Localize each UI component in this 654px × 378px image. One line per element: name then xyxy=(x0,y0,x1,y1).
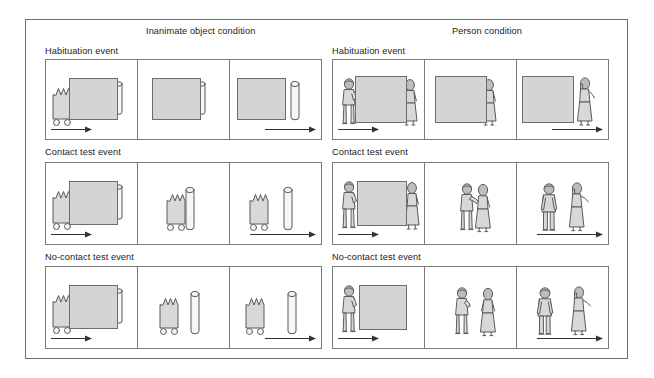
row-label-person-contact-test: Contact test event xyxy=(332,147,408,157)
row-label-inanimate-no-contact-test: No-contact test event xyxy=(45,252,134,262)
occluding-screen xyxy=(69,285,118,329)
cart-object-icon xyxy=(165,191,187,233)
male-figure-icon xyxy=(539,183,561,233)
panel-row-person-no-contact-test xyxy=(332,266,609,349)
cylinder-icon xyxy=(190,291,200,335)
panel-inanimate-no-contact-test-1 xyxy=(46,267,138,348)
cylinder-icon xyxy=(185,187,195,231)
motion-arrow-icon xyxy=(265,335,317,342)
occluding-screen xyxy=(69,78,118,120)
motion-arrow-icon xyxy=(338,335,380,342)
panel-person-contact-test-2 xyxy=(425,163,517,244)
panel-inanimate-contact-test-3 xyxy=(230,163,321,244)
occluding-screen xyxy=(69,181,118,225)
male-figure-icon xyxy=(340,285,360,335)
row-label-inanimate-habituation: Habituation event xyxy=(45,46,118,56)
panel-row-person-contact-test xyxy=(332,162,609,245)
motion-arrow-icon xyxy=(537,335,604,342)
female-figure-icon xyxy=(571,286,593,337)
panel-row-inanimate-no-contact-test xyxy=(45,266,322,349)
occluding-screen xyxy=(435,76,487,123)
row-label-person-habituation: Habituation event xyxy=(332,46,405,56)
panel-person-no-contact-test-2 xyxy=(425,267,517,348)
panel-inanimate-no-contact-test-3 xyxy=(230,267,321,348)
panel-person-habituation-2 xyxy=(425,60,517,139)
occluding-screen xyxy=(357,181,407,226)
cylinder-icon xyxy=(287,291,297,335)
motion-arrow-icon xyxy=(51,335,93,342)
motion-arrow-icon xyxy=(552,126,604,133)
motion-arrow-icon xyxy=(265,126,317,133)
male-figure-icon xyxy=(453,287,473,337)
panel-person-habituation-3 xyxy=(517,60,608,139)
panel-person-habituation-1 xyxy=(333,60,425,139)
panel-inanimate-contact-test-2 xyxy=(138,163,230,244)
cylinder-icon xyxy=(290,81,300,121)
row-label-person-no-contact-test: No-contact test event xyxy=(332,252,421,262)
occluding-screen xyxy=(359,285,407,330)
panel-row-person-habituation xyxy=(332,59,609,140)
motion-arrow-icon xyxy=(338,126,380,133)
cart-object-icon xyxy=(244,295,266,337)
panel-person-contact-test-1 xyxy=(333,163,425,244)
cart-object-icon xyxy=(158,295,180,337)
panel-person-contact-test-3 xyxy=(517,163,608,244)
panel-inanimate-habituation-2 xyxy=(138,60,230,139)
female-figure-icon xyxy=(569,182,591,233)
female-figure-icon xyxy=(405,182,421,230)
motion-arrow-icon xyxy=(338,231,380,238)
experimental-design-figure: Inanimate object condition Person condit… xyxy=(0,0,654,378)
occluding-screen xyxy=(237,78,286,120)
panel-inanimate-contact-test-1 xyxy=(46,163,138,244)
cart-object-icon xyxy=(248,191,270,233)
occluding-screen xyxy=(522,76,574,123)
row-label-inanimate-contact-test: Contact test event xyxy=(45,147,121,157)
cylinder-icon xyxy=(283,187,293,231)
panel-row-inanimate-contact-test xyxy=(45,162,322,245)
panel-inanimate-no-contact-test-2 xyxy=(138,267,230,348)
panel-inanimate-habituation-1 xyxy=(46,60,138,139)
panel-inanimate-habituation-3 xyxy=(230,60,321,139)
female-figure-icon xyxy=(475,184,493,233)
motion-arrow-icon xyxy=(537,231,604,238)
female-figure-icon xyxy=(480,288,498,337)
column-title-person: Person condition xyxy=(452,26,522,36)
motion-arrow-icon xyxy=(51,231,93,238)
panel-person-no-contact-test-1 xyxy=(333,267,425,348)
occluding-screen xyxy=(355,76,407,123)
occluding-screen xyxy=(152,78,201,120)
motion-arrow-icon xyxy=(51,126,93,133)
motion-arrow-icon xyxy=(250,231,317,238)
column-title-inanimate: Inanimate object condition xyxy=(146,26,255,36)
female-figure-icon xyxy=(577,77,597,127)
panel-row-inanimate-habituation xyxy=(45,59,322,140)
male-figure-icon xyxy=(535,287,557,337)
panel-person-no-contact-test-3 xyxy=(517,267,608,348)
